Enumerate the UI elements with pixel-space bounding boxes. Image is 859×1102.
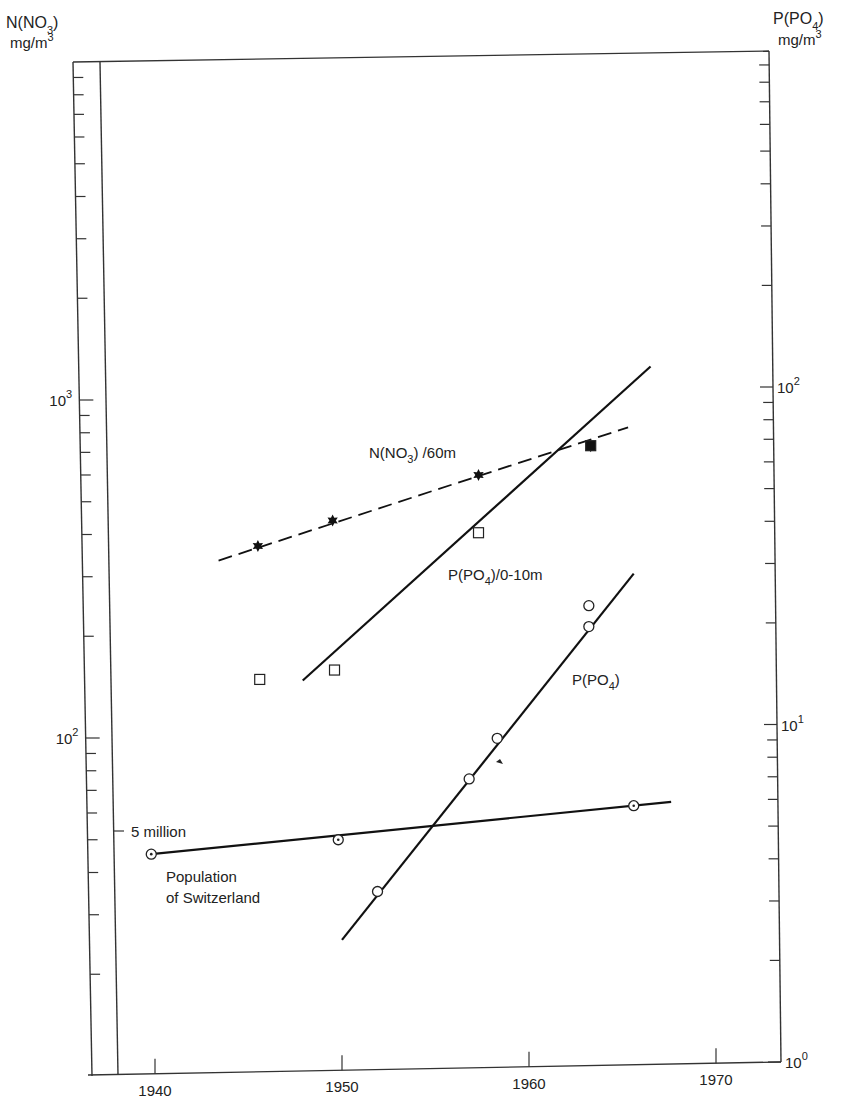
right-axis-ticks: 102101100: [759, 65, 808, 1071]
series-label-phosphate: P(PO4): [572, 671, 620, 692]
left-inner-axis: [100, 62, 118, 1075]
circle-marker: [584, 601, 594, 611]
axes-frame: [73, 51, 781, 1076]
left-tick-label: 102: [56, 726, 79, 747]
filled-square-marker: [586, 441, 596, 451]
fit-line-1: [303, 367, 651, 681]
dotted-circle-center: [337, 838, 340, 841]
top-border: [73, 51, 769, 62]
circle-marker: [584, 622, 594, 632]
right-tick-label: 101: [781, 713, 804, 734]
dotted-circle-center: [632, 804, 635, 807]
left-outer-axis: [73, 62, 92, 1076]
dotted-circle-center: [150, 853, 153, 856]
left-axis-unit: mg/m3: [10, 31, 54, 51]
x-axis-ticks: 1940195019601970: [138, 1048, 732, 1099]
series-label-population-line2: of Switzerland: [166, 889, 260, 906]
right-axis-unit: mg/m3: [778, 28, 822, 48]
bottom-axis: [88, 1062, 781, 1075]
fit-line-3: [151, 802, 671, 854]
x-tick-label: 1940: [138, 1082, 171, 1099]
series-label-population-line1: Population: [166, 868, 237, 885]
left-axis-ticks: 103102: [49, 77, 100, 974]
x-tick-label: 1950: [325, 1078, 358, 1095]
square-marker: [474, 528, 484, 538]
right-tick-label: 102: [777, 375, 800, 396]
circle-marker: [492, 733, 502, 743]
series-label-phosphate-surface: P(PO4)/0-10m: [448, 566, 543, 587]
x-tick-label: 1960: [512, 1075, 545, 1092]
population-tick-label: 5 million: [131, 823, 186, 840]
series-label-nitrate: N(NO3) /60m: [369, 444, 456, 465]
square-marker: [255, 674, 265, 684]
chart: 103102 102101100 1940195019601970 N(NO3)…: [0, 0, 859, 1102]
left-tick-label: 103: [49, 388, 72, 409]
circle-marker: [464, 774, 474, 784]
data-markers: [146, 440, 638, 896]
arrow-annotation: [496, 759, 503, 764]
right-axis: [769, 51, 781, 1062]
right-tick-label: 100: [785, 1050, 808, 1071]
circle-marker: [373, 887, 383, 897]
square-marker: [330, 665, 340, 675]
x-tick-label: 1970: [699, 1071, 732, 1088]
